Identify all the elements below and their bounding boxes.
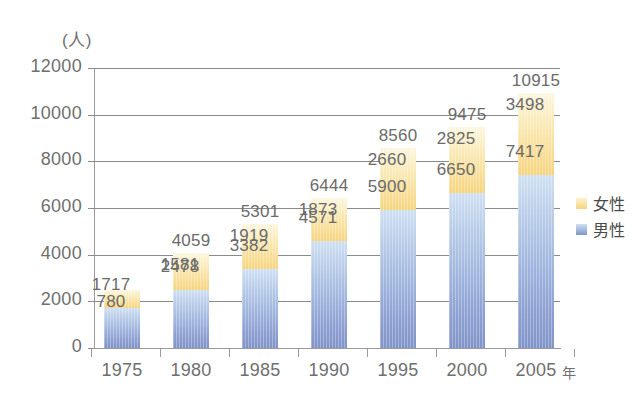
bar-segment-male-1980 — [173, 290, 209, 348]
legend-item-female: 女性 — [576, 192, 634, 214]
x-tick-label-1975: 1975 — [82, 360, 162, 381]
x-axis-unit-label: 年 — [562, 362, 576, 382]
gridline — [94, 68, 560, 69]
legend-label: 男性 — [593, 217, 625, 241]
x-tick-mark — [229, 349, 230, 357]
bar-segment-male-2005 — [518, 175, 554, 348]
y-tick-label: 12000 — [0, 56, 82, 77]
female-label-2005: 3498 — [490, 95, 560, 115]
x-tick-mark — [367, 349, 368, 357]
x-tick-label-1995: 1995 — [358, 360, 438, 381]
legend-swatch-icon-male — [576, 224, 587, 235]
y-tick-mark — [88, 115, 94, 116]
x-tick-label-1985: 1985 — [220, 360, 300, 381]
female-label-2000: 2825 — [421, 129, 491, 149]
x-tick-mark — [505, 349, 506, 357]
y-tick-mark — [88, 208, 94, 209]
x-tick-mark — [298, 349, 299, 357]
x-tick-mark — [574, 349, 575, 357]
male-label-1985: 3382 — [214, 236, 284, 256]
x-tick-mark — [160, 349, 161, 357]
female-label-1995: 2660 — [352, 150, 422, 170]
y-tick-label: 8000 — [0, 149, 82, 170]
y-tick-mark — [88, 161, 94, 162]
x-axis-line — [94, 348, 561, 349]
legend-label: 女性 — [593, 191, 625, 215]
y-tick-label: 6000 — [0, 196, 82, 217]
y-tick-label: 4000 — [0, 243, 82, 264]
x-tick-mark — [436, 349, 437, 357]
male-label-2005: 7417 — [490, 142, 560, 162]
male-label-1990: 4571 — [283, 208, 353, 228]
x-tick-label-1990: 1990 — [289, 360, 369, 381]
y-tick-mark — [88, 255, 94, 256]
x-tick-label-2000: 2000 — [427, 360, 507, 381]
y-tick-label: 0 — [0, 336, 82, 357]
male-label-1975: 1717 — [76, 275, 146, 295]
male-label-1980: 2478 — [145, 257, 215, 277]
stacked-bar-chart: (人) 120001000080006000400020000 19751980… — [0, 0, 635, 399]
bar-segment-male-2000 — [449, 193, 485, 348]
x-tick-label-1980: 1980 — [151, 360, 231, 381]
male-label-2000: 6650 — [421, 160, 491, 180]
bar-2005 — [518, 93, 554, 348]
y-tick-mark — [88, 68, 94, 69]
legend-swatch-icon-female — [576, 198, 587, 209]
legend: 女性男性 — [576, 192, 634, 244]
male-label-1995: 5900 — [352, 177, 422, 197]
bar-segment-male-1990 — [311, 241, 347, 348]
plot-area: 120001000080006000400020000 197519801985… — [94, 68, 560, 348]
bar-segment-male-1995 — [380, 210, 416, 348]
legend-item-male: 男性 — [576, 218, 634, 240]
y-tick-label: 10000 — [0, 103, 82, 124]
y-tick-label: 2000 — [0, 289, 82, 310]
bar-segment-male-1975 — [104, 308, 140, 348]
bar-segment-male-1985 — [242, 269, 278, 348]
total-label-2005: 10915 — [501, 71, 571, 91]
y-axis-unit-label: (人) — [62, 26, 92, 51]
x-tick-mark — [91, 349, 92, 357]
